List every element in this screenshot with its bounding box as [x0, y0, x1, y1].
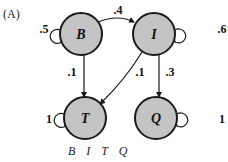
node-label-i: I — [150, 27, 157, 42]
edge-weight-b-b: .5 — [40, 22, 49, 36]
edge-weight-b-i: .4 — [114, 3, 123, 17]
self-loop-i: .6 — [172, 22, 227, 43]
edge-weight-i-q: .3 — [166, 65, 175, 79]
markov-chain-diagram: .4 .1 .1 .3 .5 .6 1 1 B I — [0, 0, 228, 162]
edge-b-to-i: .4 — [98, 3, 134, 22]
edge-weight-t-t: 1 — [46, 112, 52, 126]
node-b: B — [60, 13, 102, 55]
node-label-b: B — [75, 27, 85, 42]
edge-i-to-q: .3 — [159, 54, 175, 97]
node-i: I — [133, 13, 175, 55]
edge-weight-b-t: .1 — [68, 65, 77, 79]
node-q: Q — [135, 97, 177, 139]
edge-weight-q-q: 1 — [219, 112, 225, 126]
edge-weight-i-i: .6 — [218, 22, 227, 36]
edge-i-to-t: .1 — [100, 52, 145, 104]
edge-weight-i-t: .1 — [136, 65, 145, 79]
node-label-t: T — [81, 111, 91, 126]
state-legend: B I T Q — [68, 144, 131, 159]
node-label-q: Q — [151, 111, 161, 126]
self-loop-q: 1 — [174, 112, 225, 127]
node-t: T — [64, 97, 106, 139]
edge-b-to-t: .1 — [68, 55, 85, 97]
